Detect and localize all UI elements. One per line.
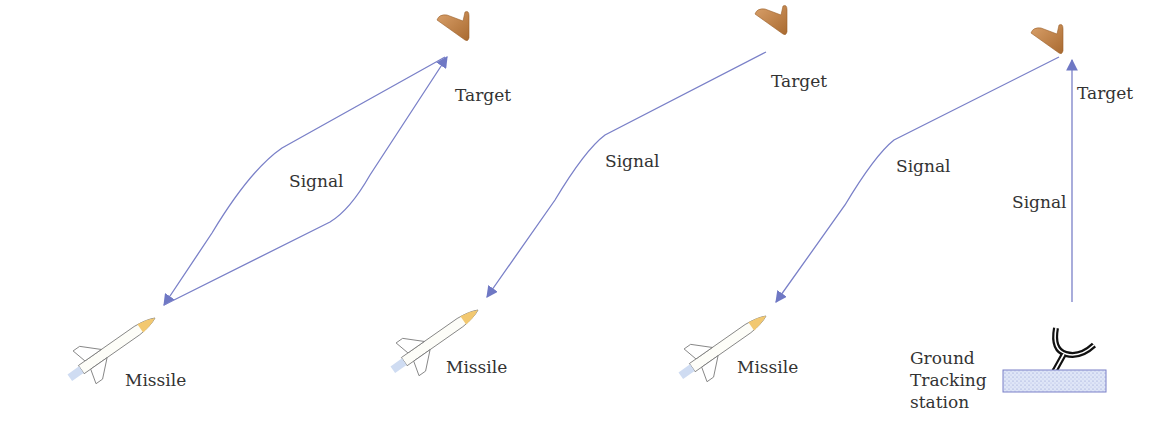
ground-station-base (1003, 370, 1106, 392)
signal-arrow-to-missile (487, 52, 766, 297)
target-label: Target (1077, 83, 1133, 103)
signal-label: Signal (289, 171, 344, 191)
signal-label-ground: Signal (1012, 192, 1067, 212)
station-label: Ground Tracking station (910, 347, 987, 413)
signal-label: Signal (605, 151, 660, 171)
panel-2 (381, 6, 787, 387)
signal-label: Signal (896, 156, 951, 176)
signal-arrow-to-missile (776, 57, 1059, 302)
target-label: Target (455, 85, 511, 105)
target-label: Target (771, 71, 827, 91)
target-icon (437, 12, 469, 41)
target-icon (755, 6, 787, 35)
missile-label: Missile (125, 370, 186, 390)
station-label-line-3: station (910, 391, 987, 413)
missile-icon (669, 300, 777, 392)
station-label-line-2: Tracking (910, 369, 987, 391)
missile-label: Missile (446, 357, 507, 377)
missile-label: Missile (737, 357, 798, 377)
target-icon (1031, 25, 1063, 54)
station-label-line-1: Ground (910, 347, 987, 369)
panel-1 (58, 12, 469, 395)
